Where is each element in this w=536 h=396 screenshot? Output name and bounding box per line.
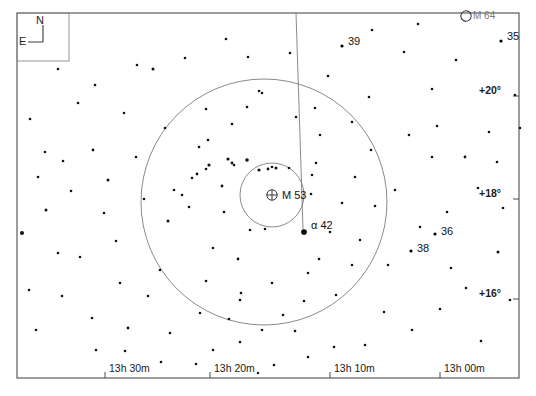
field-star [295, 116, 298, 119]
field-star [519, 127, 522, 130]
field-star [91, 317, 94, 320]
field-star [226, 157, 229, 160]
field-star [62, 160, 65, 163]
field-star [294, 330, 297, 333]
field-star [314, 107, 317, 110]
field-star [205, 108, 208, 111]
field-star [245, 158, 249, 162]
dec-axis-label-2: +16° [479, 288, 501, 299]
field-star [184, 57, 187, 60]
field-star [195, 363, 198, 366]
field-star [417, 23, 420, 26]
field-star [196, 173, 199, 176]
field-star [28, 289, 31, 292]
field-star [212, 349, 215, 352]
field-star [152, 68, 155, 71]
ra-axis-label-3: 13h 00m [444, 363, 485, 374]
field-star [233, 164, 236, 167]
field-star [370, 149, 373, 152]
field-star [258, 90, 261, 93]
field-star [20, 231, 24, 235]
field-star [436, 125, 439, 128]
field-star [212, 247, 215, 250]
field-star [95, 349, 98, 352]
field-star [450, 267, 453, 270]
field-star [341, 202, 344, 205]
field-star [173, 189, 176, 192]
field-star [239, 341, 242, 344]
dec-axis-label-1: +18° [479, 188, 501, 199]
field-star [143, 198, 146, 201]
field-star [383, 311, 386, 314]
compass-arms-icon [28, 25, 43, 42]
field-star [267, 168, 270, 171]
field-star [307, 356, 310, 359]
field-star [359, 239, 362, 242]
field-star [169, 332, 172, 335]
field-star [335, 294, 338, 297]
outer-field-circle [141, 79, 387, 325]
field-star [247, 56, 250, 59]
field-star [257, 372, 259, 374]
field-star [327, 75, 330, 78]
star-label-star35: 35 [507, 31, 519, 42]
field-star [199, 312, 202, 315]
field-star [371, 29, 374, 32]
field-star [303, 300, 306, 303]
field-star [167, 220, 170, 223]
field-star [207, 163, 210, 166]
sky-canvas [0, 0, 536, 396]
field-star [329, 231, 332, 234]
field-star [310, 193, 313, 196]
field-star [403, 51, 406, 54]
field-star [35, 329, 38, 332]
field-star [181, 194, 184, 197]
field-star [198, 146, 201, 149]
star-field [20, 23, 521, 374]
field-star [188, 206, 191, 209]
field-star [271, 282, 274, 285]
field-star [115, 240, 118, 243]
field-star [502, 207, 505, 210]
field-star [368, 96, 371, 99]
named-star-star35 [499, 39, 502, 42]
star-label-star38: 38 [417, 243, 429, 254]
named-star-alpha42 [301, 229, 307, 235]
field-star [319, 134, 322, 137]
field-star [94, 84, 97, 87]
field-star [135, 156, 138, 159]
dec-axis-label-0: +20° [479, 85, 501, 96]
field-star [107, 179, 110, 182]
field-star [257, 168, 260, 171]
field-star [246, 106, 249, 109]
field-star [446, 211, 449, 214]
field-star [509, 299, 512, 302]
field-star [205, 280, 208, 283]
field-star [275, 167, 278, 170]
field-star [77, 102, 80, 105]
field-star [439, 308, 442, 311]
field-star [136, 64, 139, 67]
field-star [419, 226, 422, 229]
field-star [514, 94, 517, 97]
field-star [351, 121, 354, 124]
field-star [29, 118, 32, 121]
field-star [351, 264, 354, 267]
dso-symbol-m64 [459, 9, 472, 22]
compass-east-label: E [19, 36, 26, 47]
field-star [497, 251, 500, 254]
field-star [496, 161, 499, 164]
field-star [289, 52, 292, 55]
chart-frame [17, 13, 519, 378]
field-star [57, 252, 60, 255]
star-label-alpha42: α 42 [311, 220, 333, 231]
field-star [264, 228, 267, 231]
named-star-star38 [409, 249, 412, 252]
field-star [411, 329, 414, 332]
field-star [387, 264, 390, 267]
field-star [261, 92, 264, 95]
field-star [61, 295, 64, 298]
star-chart: N E M 53M 64α 423935363813h 30m13h 20m13… [0, 0, 536, 396]
named-star-star39 [340, 44, 343, 47]
field-star [119, 282, 122, 285]
